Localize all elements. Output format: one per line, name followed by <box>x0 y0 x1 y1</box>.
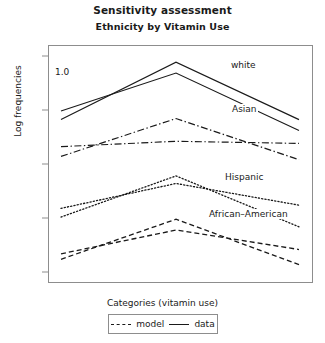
series-label-asian: Asian <box>231 104 258 114</box>
line-asian-data <box>61 119 299 160</box>
line-african-american-model <box>61 230 299 254</box>
annotation-1-0: 1.0 <box>55 67 69 77</box>
chart-legend: model data <box>108 314 218 334</box>
legend-data-label: data <box>194 319 214 329</box>
series-label-african-american: African–American <box>208 209 289 219</box>
line-asian-model <box>61 141 299 146</box>
x-axis-label: Categories (vitamin use) <box>0 298 325 308</box>
series-lines <box>49 46 312 282</box>
series-label-hispanic: Hispanic <box>224 172 264 182</box>
legend-model-swatch <box>111 324 131 325</box>
y-axis-label: Log frequencies <box>13 31 23 171</box>
chart-figure: Sensitivity assessment Ethnicity by Vita… <box>0 0 325 343</box>
legend-model-label: model <box>136 319 164 329</box>
plot-area <box>48 45 313 283</box>
series-label-white: white <box>230 60 257 70</box>
legend-data-swatch <box>169 324 189 325</box>
line-white-data <box>61 62 299 119</box>
line-hispanic-data <box>61 176 299 227</box>
chart-title: Sensitivity assessment <box>0 4 325 16</box>
chart-subtitle: Ethnicity by Vitamin Use <box>0 21 325 32</box>
line-african-american-data <box>61 219 299 264</box>
